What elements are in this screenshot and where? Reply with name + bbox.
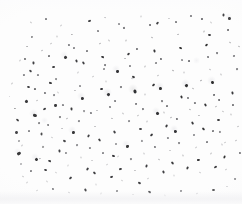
scan-background: [0, 0, 242, 204]
speckle-field-image: Speckle field scan White paper-like back…: [0, 0, 242, 204]
